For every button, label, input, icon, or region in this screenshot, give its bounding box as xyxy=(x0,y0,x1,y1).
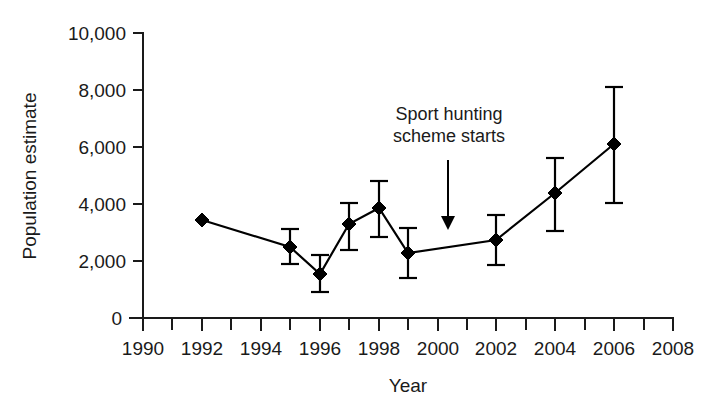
annotation-line-2: scheme starts xyxy=(393,126,505,146)
x-tick-label-2008: 2008 xyxy=(652,338,694,359)
population-estimate-line-chart: 10,000 8,000 6,000 4,000 2,000 0 Populat… xyxy=(0,0,727,412)
x-tick-label-1992: 1992 xyxy=(181,338,223,359)
y-tick-label-0: 0 xyxy=(111,308,122,329)
data-point-1999 xyxy=(401,246,415,260)
x-tick-label-2006: 2006 xyxy=(593,338,635,359)
x-axis-title: Year xyxy=(389,375,428,396)
x-tick-label-2000: 2000 xyxy=(417,338,459,359)
y-tick-label-4000: 4,000 xyxy=(78,194,126,215)
annotation-line-1: Sport hunting xyxy=(395,104,502,124)
chart-figure: 10,000 8,000 6,000 4,000 2,000 0 Populat… xyxy=(0,0,727,412)
x-tick-label-1996: 1996 xyxy=(299,338,341,359)
x-tick-label-2004: 2004 xyxy=(534,338,577,359)
x-axis-group: 1990 1992 1994 1996 1998 2000 2002 2004 … xyxy=(122,318,694,396)
y-tick-label-8000: 8,000 xyxy=(78,80,126,101)
y-axis-ticks xyxy=(129,33,143,318)
data-point-1998 xyxy=(372,201,386,215)
y-axis-title: Population estimate xyxy=(19,93,40,260)
data-point-1997 xyxy=(342,217,356,231)
y-tick-label-2000: 2,000 xyxy=(78,251,126,272)
x-tick-label-1998: 1998 xyxy=(358,338,400,359)
x-tick-label-2002: 2002 xyxy=(475,338,517,359)
x-tick-label-1990: 1990 xyxy=(122,338,164,359)
annotation-arrow-head-icon xyxy=(441,216,455,230)
y-axis-group: 10,000 8,000 6,000 4,000 2,000 0 Populat… xyxy=(19,23,143,329)
x-tick-label-1994: 1994 xyxy=(240,338,283,359)
y-tick-label-6000: 6,000 xyxy=(78,137,126,158)
x-axis-minor-ticks xyxy=(172,318,644,330)
data-point-1992 xyxy=(195,213,209,227)
y-tick-label-10000: 10,000 xyxy=(68,23,126,44)
sport-hunting-annotation: Sport hunting scheme starts xyxy=(393,104,505,230)
